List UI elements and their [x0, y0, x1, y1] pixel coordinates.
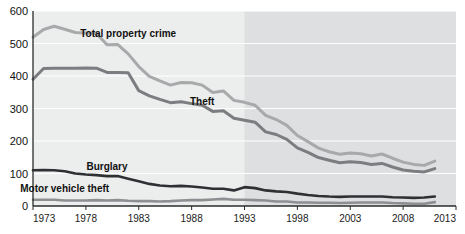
y-tick-600: 600 [10, 5, 28, 17]
x-tick-2008: 2008 [392, 213, 415, 224]
y-tick-400: 400 [10, 70, 28, 82]
x-axis-tick-labels: 197319781983198819931998200320082013 [33, 206, 456, 224]
x-tick-2013: 2013 [434, 213, 457, 224]
x-tick-1973: 1973 [33, 213, 56, 224]
x-tick-1983: 1983 [128, 213, 151, 224]
y-tick-300: 300 [10, 103, 28, 115]
x-tick-1988: 1988 [181, 213, 204, 224]
x-tick-2003: 2003 [339, 213, 362, 224]
property-crime-rate-chart: 0100200300400500600 19731978198319881993… [0, 0, 465, 234]
x-tick-1978: 1978 [75, 213, 98, 224]
y-tick-100: 100 [10, 168, 28, 180]
x-tick-1993: 1993 [233, 213, 256, 224]
y-tick-0: 0 [22, 200, 28, 212]
series-label-motor-vehicle-theft: Motor vehicle theft [20, 183, 110, 194]
y-tick-500: 500 [10, 38, 28, 50]
series-label-theft: Theft [190, 96, 215, 107]
y-tick-200: 200 [10, 135, 28, 147]
series-label-burglary: Burglary [86, 161, 128, 172]
x-tick-1998: 1998 [286, 213, 309, 224]
series-label-total-property-crime: Total property crime [80, 28, 176, 39]
y-axis-tick-labels: 0100200300400500600 [10, 5, 28, 212]
